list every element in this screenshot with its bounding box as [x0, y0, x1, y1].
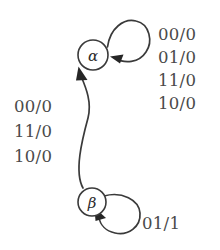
transition-label-alpha-self-2: 01/0 — [158, 50, 196, 67]
transition-label-beta-to-alpha-2: 11/0 — [14, 124, 52, 141]
transition-label-beta-to-alpha-3: 10/0 — [14, 149, 52, 166]
transition-label-alpha-self-1: 00/0 — [158, 27, 196, 44]
transition-label-beta-to-alpha-1: 00/0 — [14, 99, 52, 116]
state-label-alpha: α — [88, 47, 98, 65]
beta-to-alpha-edge — [79, 76, 89, 188]
state-label-beta: β — [87, 194, 97, 212]
transition-label-alpha-self-4: 10/0 — [158, 96, 196, 113]
state-machine-diagram: α β 00/0 01/0 11/0 10/0 00/0 11/0 10/0 0… — [0, 0, 220, 250]
transition-label-alpha-self-3: 11/0 — [158, 73, 196, 90]
transition-label-beta-self-1: 01/1 — [142, 216, 180, 233]
alpha-self-loop-arrowhead — [110, 55, 124, 64]
alpha-self-loop-edge — [108, 20, 150, 61]
